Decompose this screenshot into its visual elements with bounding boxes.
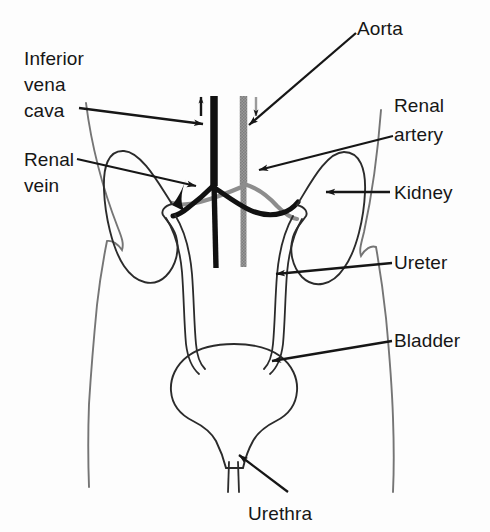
label-renal-artery-line1: Renal [394, 95, 444, 116]
label-inferior-vena-cava-line2: vena [24, 74, 66, 95]
label-renal-vein-line1: Renal [24, 149, 74, 170]
label-aorta: Aorta [357, 18, 403, 39]
label-bladder: Bladder [394, 330, 461, 351]
label-ureter: Ureter [394, 252, 448, 273]
label-inferior-vena-cava-line3: cava [24, 100, 65, 121]
inferior-vena-cava-vessel [214, 96, 216, 268]
label-urethra: Urethra [248, 503, 312, 524]
urinary-system-figure: Inferior vena cava Renal vein Aorta Rena… [0, 0, 490, 532]
diagram-canvas: Inferior vena cava Renal vein Aorta Rena… [0, 0, 490, 532]
label-renal-artery-line2: artery [394, 124, 444, 145]
label-renal-vein-line2: vein [24, 175, 59, 196]
label-inferior-vena-cava-line1: Inferior [24, 48, 85, 69]
label-kidney: Kidney [394, 182, 453, 203]
